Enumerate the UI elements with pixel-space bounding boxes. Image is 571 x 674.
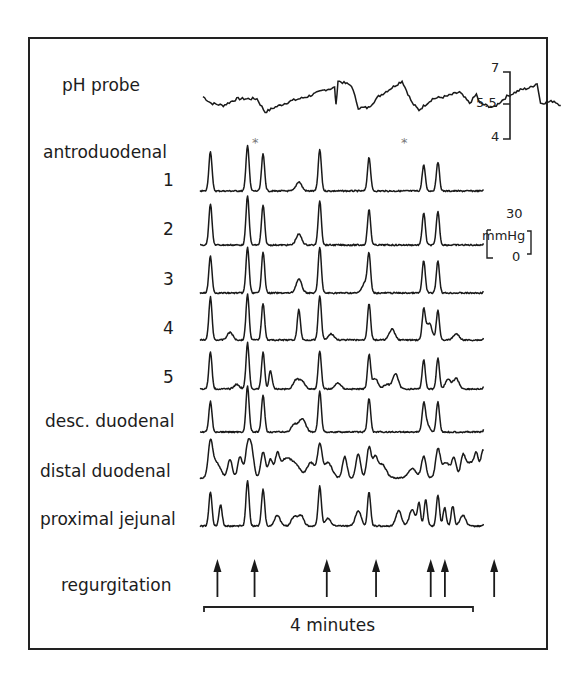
pressure-traces: [200, 146, 484, 527]
arrow-up-icon: [213, 559, 221, 597]
arrow-up-icon: [427, 559, 435, 597]
label-ph-probe: pH probe: [62, 77, 140, 94]
ph-trace: [203, 81, 561, 112]
pressure-trace-antroduodenal-4: [200, 294, 484, 341]
ph-scale-bottom: 4: [491, 130, 499, 143]
pressure-trace-distal-duodenal: [200, 439, 484, 479]
pressure-trace-antroduodenal-3: [200, 247, 484, 294]
scale-bars: [204, 72, 531, 612]
asterisk-marker-1: *: [252, 136, 259, 149]
pressure-trace-proximal-jejunal: [200, 481, 484, 527]
pressure-trace-antroduodenal-2: [200, 196, 484, 246]
label-channel-3: 3: [163, 271, 174, 288]
asterisk-marker-2: *: [401, 136, 408, 149]
pressure-trace-antroduodenal-1: [200, 146, 484, 192]
arrow-up-icon: [441, 559, 449, 597]
label-time-span: 4 minutes: [290, 617, 375, 634]
pressure-trace-desc-duodenal: [200, 386, 484, 433]
manometry-figure: pH probe antroduodenal 1 2 3 4 5 desc. d…: [0, 0, 571, 674]
label-desc-duodenal: desc. duodenal: [45, 413, 174, 430]
label-channel-4: 4: [163, 320, 174, 337]
label-distal-duodenal: distal duodenal: [40, 463, 171, 480]
arrow-up-icon: [251, 559, 259, 597]
regurgitation-arrows: [213, 559, 498, 597]
label-regurgitation: regurgitation: [61, 577, 172, 594]
label-antroduodenal: antroduodenal: [43, 144, 167, 161]
pressure-trace-antroduodenal-5: [200, 342, 484, 389]
pressure-scale-top: 30: [506, 207, 523, 220]
ph-line: [203, 81, 561, 112]
pressure-scale-bottom: 0: [512, 250, 520, 263]
ph-scale-top: 7: [491, 61, 499, 74]
label-channel-1: 1: [163, 172, 174, 189]
ph-scale-mid: 5.5: [476, 96, 497, 109]
ph-scale-bracket: [503, 72, 510, 139]
label-channel-5: 5: [163, 369, 174, 386]
arrow-up-icon: [372, 559, 380, 597]
label-channel-2: 2: [163, 221, 174, 238]
pressure-scale-unit: mmHg: [482, 229, 525, 242]
time-scale-bracket: [204, 607, 473, 612]
label-proximal-jejunal: proximal jejunal: [40, 511, 176, 528]
arrow-up-icon: [323, 559, 331, 597]
arrow-up-icon: [490, 559, 498, 597]
